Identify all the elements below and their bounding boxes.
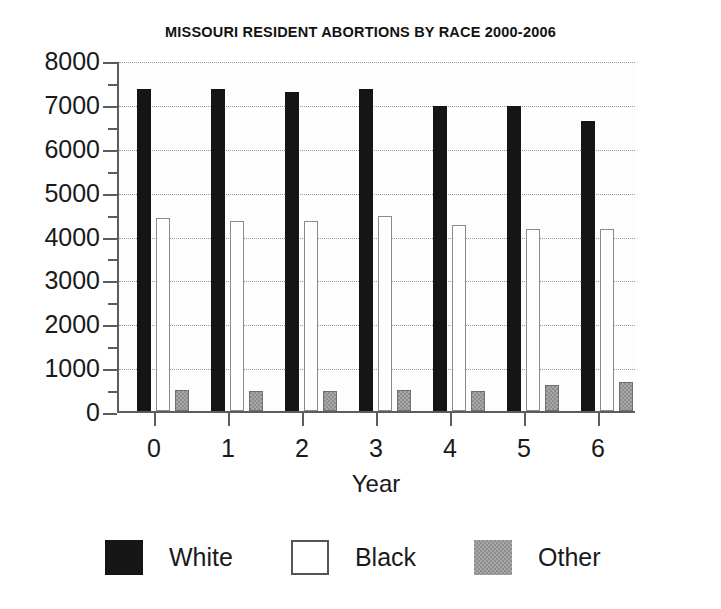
gridline [119,369,635,370]
bar-black-1 [230,221,244,411]
x-axis-tick [598,413,600,426]
bar-white-4 [433,106,447,411]
plot-area [117,62,635,413]
gridline [119,62,635,63]
x-axis-tick [376,413,378,426]
bar-other-4 [471,391,485,411]
y-axis-tick-label: 5000 [8,181,100,206]
y-axis-minor-tick [108,84,117,86]
bar-white-1 [211,89,225,411]
x-axis-title: Year [117,470,635,498]
y-axis-label-group: 800070006000500040003000200010000 [0,0,100,609]
y-axis-tick [103,62,117,64]
chart-legend: White Black Other [105,532,625,582]
gridline [119,194,635,195]
legend-label-black: Black [355,545,416,570]
y-axis-tick-label: 2000 [8,312,100,337]
x-axis-tick-label: 4 [420,434,480,462]
gridline [119,150,635,151]
bar-black-6 [600,229,614,411]
bar-white-6 [581,121,595,411]
bar-other-3 [397,390,411,411]
bar-other-1 [249,391,263,411]
x-axis-tick [524,413,526,426]
y-axis-tick-label: 4000 [8,225,100,250]
bar-other-2 [323,391,337,411]
y-axis-tick-label: 7000 [8,93,100,118]
y-axis-minor-tick [108,259,117,261]
legend-swatch-black-icon [291,540,329,575]
x-axis-tick [154,413,156,426]
x-axis-tick-label: 5 [494,434,554,462]
x-axis-tick [450,413,452,426]
y-axis-tick [103,369,117,371]
y-axis-tick [103,238,117,240]
bar-other-6 [619,382,633,411]
legend-label-white: White [169,545,233,570]
y-axis-tick [103,194,117,196]
legend-swatch-other-icon [474,540,512,575]
legend-item-other: Other [474,540,601,575]
y-axis-tick-label: 1000 [8,356,100,381]
y-axis-minor-tick [108,347,117,349]
y-axis-tick [103,106,117,108]
bar-black-3 [378,216,392,411]
bar-white-0 [137,89,151,411]
y-axis-tick [103,413,117,415]
bar-black-4 [452,225,466,411]
y-axis-minor-tick [108,128,117,130]
bar-white-2 [285,92,299,411]
chart-title: MISSOURI RESIDENT ABORTIONS BY RACE 2000… [0,24,721,40]
legend-item-black: Black [291,540,416,575]
y-axis-minor-tick [108,391,117,393]
y-axis-tick-label: 8000 [8,49,100,74]
chart-figure: MISSOURI RESIDENT ABORTIONS BY RACE 2000… [0,0,721,609]
x-axis-tick-label: 2 [272,434,332,462]
bar-other-5 [545,385,559,411]
x-axis-tick-label: 3 [346,434,406,462]
bar-other-0 [175,390,189,411]
bar-white-5 [507,106,521,411]
y-axis-tick-label: 3000 [8,268,100,293]
y-axis-tick [103,281,117,283]
y-axis-tick [103,325,117,327]
y-axis-tick-label: 6000 [8,137,100,162]
gridline [119,325,635,326]
x-axis-tick-label: 1 [198,434,258,462]
bar-white-3 [359,89,373,411]
legend-item-white: White [105,540,233,575]
bar-black-5 [526,229,540,411]
x-axis-tick [302,413,304,426]
bar-black-0 [156,218,170,411]
y-axis-minor-tick [108,303,117,305]
bar-black-2 [304,221,318,411]
gridline [119,106,635,107]
y-axis-minor-tick [108,172,117,174]
gridline [119,238,635,239]
x-axis-tick [228,413,230,426]
y-axis-minor-tick [108,216,117,218]
legend-label-other: Other [538,545,601,570]
gridline [119,281,635,282]
y-axis-tick-label: 0 [8,400,100,425]
y-axis-tick [103,150,117,152]
legend-swatch-white-icon [105,540,143,575]
x-axis-tick-label: 6 [568,434,628,462]
x-axis-tick-label: 0 [124,434,184,462]
